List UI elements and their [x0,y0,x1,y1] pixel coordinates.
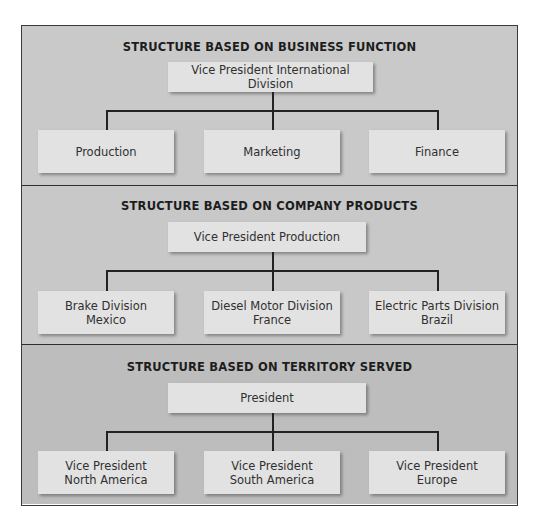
child-node: Finance [369,130,505,173]
section-title: STRUCTURE BASED ON BUSINESS FUNCTION [22,40,517,54]
node-sublabel: North America [64,473,147,487]
connector-line [437,431,439,451]
section-company-products: STRUCTURE BASED ON COMPANY PRODUCTS Vice… [22,186,517,345]
node-label: Vice President [65,459,147,473]
node-label: Vice President [231,459,313,473]
connector-line [106,270,108,291]
child-node: Marketing [204,130,340,173]
child-node: Vice President South America [204,451,340,494]
child-node: Diesel Motor Division France [204,291,340,334]
connector-line [106,110,108,130]
connector-line [106,431,438,433]
node-label: Vice President International Division [168,63,373,91]
section-title: STRUCTURE BASED ON COMPANY PRODUCTS [22,199,517,213]
top-node: President [168,383,366,413]
connector-line [106,431,108,451]
connector-line [106,110,438,112]
node-sublabel: Brazil [421,313,453,327]
node-label: Brake Division [65,299,147,313]
node-sublabel: Europe [417,473,457,487]
top-node: Vice President Production [168,222,366,252]
child-node: Production [38,130,174,173]
section-territory-served: STRUCTURE BASED ON TERRITORY SERVED Pres… [22,345,517,504]
section-title: STRUCTURE BASED ON TERRITORY SERVED [22,360,517,374]
node-label: Marketing [243,145,300,159]
connector-line [437,110,439,130]
node-label: Vice President Production [194,230,340,244]
connector-line [106,270,438,272]
node-label: President [240,391,294,405]
child-node: Vice President North America [38,451,174,494]
connector-line [437,270,439,291]
child-node: Brake Division Mexico [38,291,174,334]
section-business-function: STRUCTURE BASED ON BUSINESS FUNCTION Vic… [22,26,517,186]
node-sublabel: Mexico [86,313,126,327]
top-node: Vice President International Division [168,62,373,92]
child-node: Electric Parts Division Brazil [369,291,505,334]
child-node: Vice President Europe [369,451,505,494]
node-label: Finance [415,145,459,159]
org-structure-diagram: STRUCTURE BASED ON BUSINESS FUNCTION Vic… [21,25,518,506]
connector-line [272,252,274,291]
node-sublabel: France [253,313,291,327]
node-label: Electric Parts Division [375,299,499,313]
node-label: Diesel Motor Division [211,299,333,313]
node-label: Production [75,145,136,159]
node-label: Vice President [396,459,478,473]
node-sublabel: South America [230,473,315,487]
